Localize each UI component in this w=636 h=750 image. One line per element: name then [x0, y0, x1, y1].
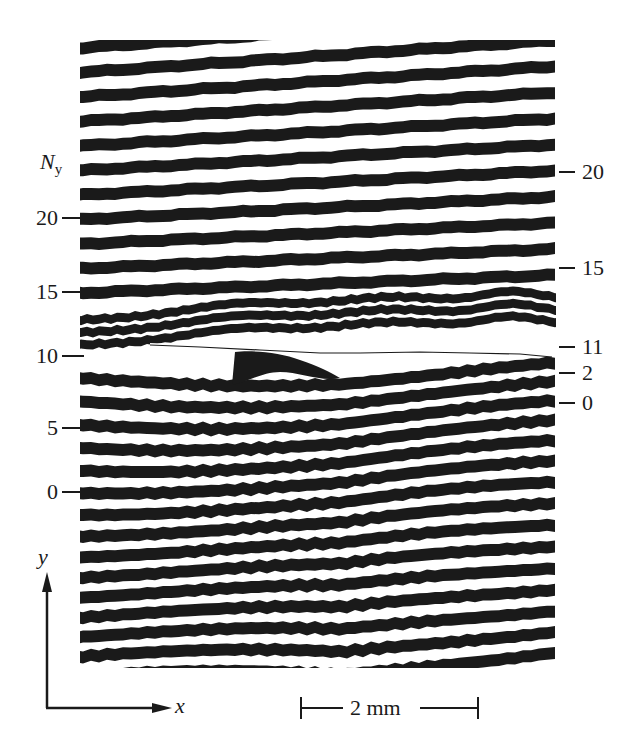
right-tick-mark — [559, 402, 575, 404]
left-axis-title: Ny — [40, 151, 62, 180]
moire-fringe-figure: Ny 20151050 20151120 y x 2 mm — [0, 0, 636, 750]
right-tick-label: 20 — [582, 161, 604, 183]
left-tick-mark — [62, 491, 84, 493]
right-tick-label: 2 — [582, 362, 593, 384]
x-axis-label: x — [175, 695, 185, 717]
left-tick-label: 5 — [47, 417, 58, 439]
left-tick-label: 15 — [36, 281, 58, 303]
right-tick-label: 0 — [582, 392, 593, 414]
left-tick-mark — [62, 217, 84, 219]
right-tick-label: 11 — [582, 336, 603, 358]
right-tick-mark — [559, 171, 575, 173]
right-tick-mark — [559, 372, 575, 374]
left-tick-label: 20 — [36, 207, 58, 229]
right-tick-label: 15 — [582, 257, 604, 279]
right-tick-mark — [559, 267, 575, 269]
left-tick-label: 10 — [36, 345, 58, 367]
left-axis-title-sub: y — [55, 161, 63, 177]
left-tick-mark — [62, 355, 84, 357]
right-tick-mark — [559, 346, 575, 348]
fringe-pattern — [0, 0, 636, 750]
left-tick-mark — [62, 427, 84, 429]
left-axis-title-main: N — [40, 149, 55, 174]
left-tick-mark — [62, 291, 84, 293]
scale-bar-label: 2 mm — [350, 697, 401, 719]
crack-line — [150, 344, 552, 356]
y-axis-label: y — [38, 546, 48, 568]
left-tick-label: 0 — [47, 481, 58, 503]
